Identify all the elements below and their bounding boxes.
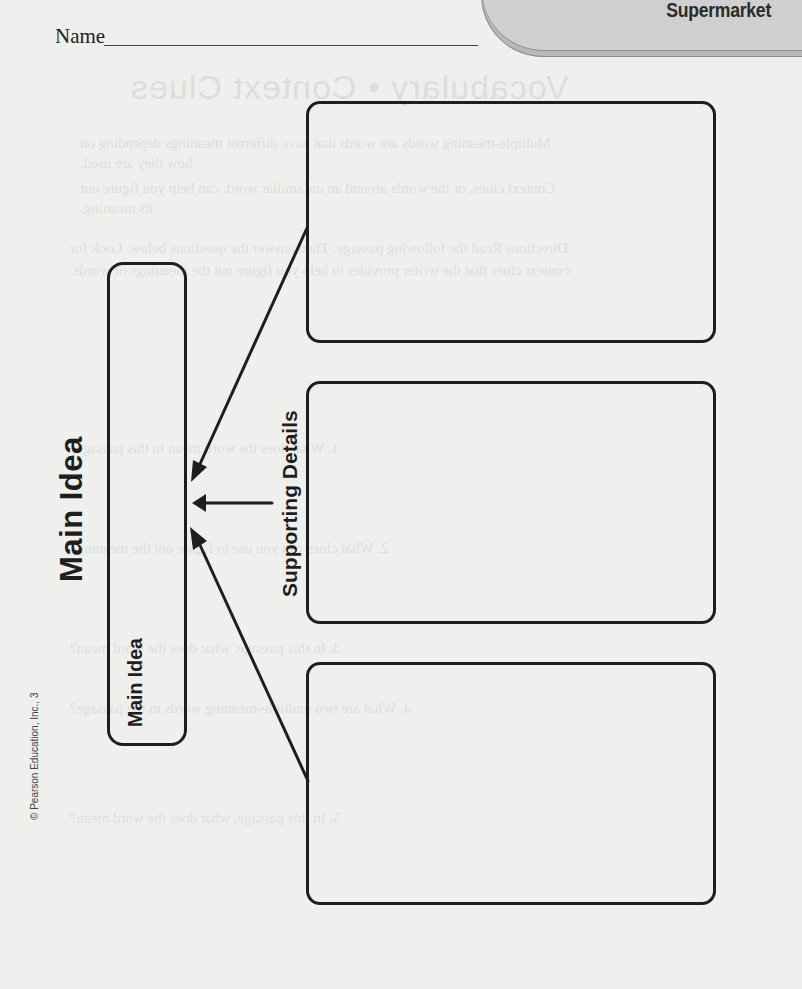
bleed-through-line: its meaning. xyxy=(80,200,153,217)
supporting-detail-box-2[interactable] xyxy=(306,381,716,624)
main-idea-box-label: Main Idea xyxy=(124,638,147,727)
arrowhead-icon xyxy=(191,460,207,482)
name-label: Name xyxy=(55,24,105,49)
bleed-through-line: how they are used. xyxy=(80,155,192,172)
selection-title: Supermarket xyxy=(666,0,771,22)
arrowhead-icon xyxy=(192,494,206,512)
supporting-detail-box-3[interactable] xyxy=(306,662,716,905)
supporting-details-heading: Supporting Details xyxy=(278,410,302,597)
main-idea-heading: Main Idea xyxy=(54,436,90,582)
copyright-notice: © Pearson Education, Inc., 3 xyxy=(29,693,40,820)
selection-title-tab: Supermarket xyxy=(481,0,802,57)
main-idea-box[interactable] xyxy=(107,262,187,746)
name-field[interactable] xyxy=(104,45,478,46)
arrowhead-icon xyxy=(190,527,207,550)
bleed-through-line: 5. In this passage, what does the word m… xyxy=(70,810,341,827)
supporting-detail-box-1[interactable] xyxy=(306,101,716,343)
